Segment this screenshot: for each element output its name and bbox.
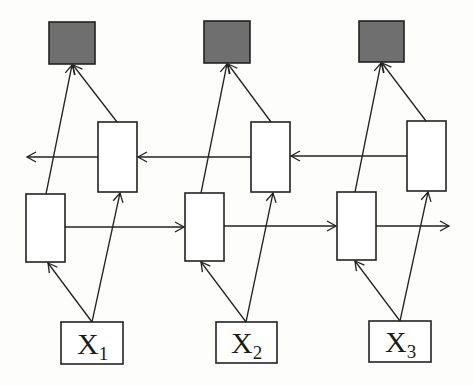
backward2-to-output2 <box>228 64 271 122</box>
forward-state-2 <box>185 193 224 261</box>
output-node-3 <box>359 21 404 62</box>
input3-to-forward3 <box>355 261 400 321</box>
input-node-2: X2 <box>216 322 277 363</box>
output-node-1 <box>49 22 95 64</box>
forward3-to-output3 <box>355 63 381 192</box>
backward3-to-output3 <box>382 63 426 121</box>
backward1-to-output1 <box>73 65 117 122</box>
backward-state-1 <box>98 122 137 192</box>
backward-state-2 <box>251 122 290 192</box>
input3-to-backward3 <box>400 192 428 321</box>
bidirectional-rnn-diagram: X1 X2 X3 <box>0 0 474 386</box>
input2-to-backward2 <box>246 193 273 322</box>
forward1-to-output1 <box>46 65 72 194</box>
forward2-to-output2 <box>201 64 227 193</box>
input1-to-backward1 <box>92 193 120 322</box>
input1-to-forward1 <box>48 263 92 322</box>
input-node-3: X3 <box>369 321 431 362</box>
output-node-2 <box>204 21 250 63</box>
input-node-1: X1 <box>61 322 123 364</box>
forward-state-1 <box>26 194 65 262</box>
forward-state-3 <box>337 192 376 260</box>
input2-to-forward2 <box>201 262 246 322</box>
backward-state-3 <box>407 121 446 191</box>
